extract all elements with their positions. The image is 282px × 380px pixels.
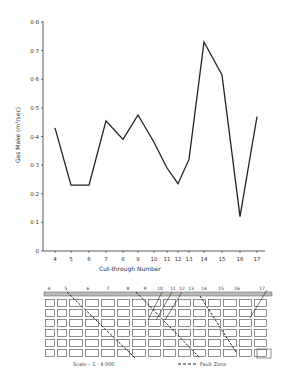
pillar [209, 340, 221, 347]
pillar [209, 350, 221, 357]
y-tick-label: 0 [36, 248, 40, 254]
pillar [164, 350, 176, 357]
x-ticks: 4567891011121314151617 [53, 251, 261, 262]
pillar [70, 320, 83, 327]
fault-zone-line [67, 292, 135, 358]
x-tick-label: 16 [237, 256, 244, 262]
mine-plan-diagram: 4567891011121314151617 [44, 286, 272, 358]
y-tick-label: 0·1 [30, 219, 39, 225]
pillar [149, 300, 161, 307]
plan-cutthrough-labels: 4567891011121314151617 [48, 286, 265, 291]
x-tick-label: 11 [164, 256, 171, 262]
pillar [224, 320, 237, 327]
y-tick-label: 0·5 [30, 105, 39, 111]
pillar [102, 340, 115, 347]
pillar [179, 350, 191, 357]
pillar [58, 350, 67, 357]
pillar [70, 330, 83, 337]
pillar [58, 340, 67, 347]
plan-label: 16 [234, 286, 240, 291]
x-tick-label: 15 [219, 256, 226, 262]
pillar [179, 330, 191, 337]
pillar [58, 300, 67, 307]
pillar [255, 320, 267, 327]
pillar [149, 350, 161, 357]
pillar [149, 320, 161, 327]
pillar [46, 330, 55, 337]
pillar [255, 340, 267, 347]
plan-label: 17 [259, 286, 265, 291]
pillar [133, 330, 146, 337]
x-tick-label: 8 [121, 256, 125, 262]
x-tick-label: 5 [69, 256, 73, 262]
pillar [240, 330, 252, 337]
pillar [102, 330, 115, 337]
pillar [46, 300, 55, 307]
pillar [102, 310, 115, 317]
pillar [224, 310, 237, 317]
pillar [70, 310, 83, 317]
plan-label: 4 [48, 286, 51, 291]
plan-label: 5 [65, 286, 68, 291]
y-ticks: 00·10·20·30·40·50·60·70·8 [30, 19, 43, 254]
plan-label: 12 [179, 286, 185, 291]
pillar [179, 300, 191, 307]
pillar [46, 340, 55, 347]
pillar [86, 330, 99, 337]
pillar [179, 340, 191, 347]
gas-make-line [55, 42, 257, 217]
pillar [240, 340, 252, 347]
pillar [86, 350, 99, 357]
pillar [86, 300, 99, 307]
pillar [46, 320, 55, 327]
pillar [102, 300, 115, 307]
pillar [240, 300, 252, 307]
pillar [46, 310, 55, 317]
pillar [164, 340, 176, 347]
x-axis-title: Cut-through Number [99, 265, 162, 273]
plan-label: 14 [201, 286, 207, 291]
pillar [209, 320, 221, 327]
pillar [194, 330, 206, 337]
x-tick-label: 10 [151, 256, 158, 262]
pillar [102, 350, 115, 357]
pillar [224, 340, 237, 347]
y-axis-title: Gas Make (m³/sec) [14, 107, 21, 163]
pillar [102, 320, 115, 327]
pillar [194, 340, 206, 347]
pillar [58, 310, 67, 317]
pillar [240, 320, 252, 327]
pillar [58, 320, 67, 327]
plan-fault-lines [67, 290, 267, 358]
pillar [240, 350, 252, 357]
pillar [149, 340, 161, 347]
pillar [164, 320, 176, 327]
x-tick-label: 13 [186, 256, 193, 262]
plan-label: 6 [87, 286, 90, 291]
y-tick-label: 0·8 [30, 19, 39, 25]
y-tick-label: 0·7 [30, 48, 39, 54]
pillar [255, 330, 267, 337]
pillar [70, 350, 83, 357]
pillar [224, 300, 237, 307]
y-tick-label: 0·3 [30, 162, 39, 168]
pillar [149, 330, 161, 337]
pillar [194, 310, 206, 317]
pillar [179, 310, 191, 317]
x-tick-label: 6 [87, 256, 91, 262]
y-tick-label: 0·4 [30, 134, 39, 140]
plan-top-band [44, 292, 272, 296]
plan-label: 7 [107, 286, 110, 291]
pillar [58, 330, 67, 337]
y-tick-label: 0·6 [30, 76, 39, 82]
pillar [209, 300, 221, 307]
pillar [46, 350, 55, 357]
pillar [133, 350, 146, 357]
plan-label: 11 [170, 286, 176, 291]
x-tick-label: 9 [136, 256, 140, 262]
plan-label: 13 [188, 286, 194, 291]
x-tick-label: 4 [53, 256, 57, 262]
pillar [133, 340, 146, 347]
scale-label: Scale – 1 : 4 000 [73, 361, 115, 367]
pillar [118, 320, 130, 327]
